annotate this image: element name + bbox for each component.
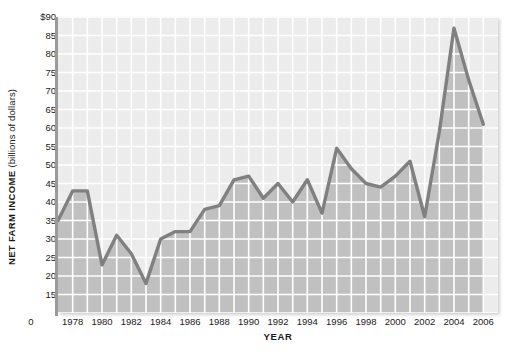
x-axis-tick-label: 1988 (209, 316, 230, 327)
x-axis-tick-label: 1996 (326, 316, 347, 327)
axis-origin-label: 0 (28, 316, 33, 327)
x-axis-tick-label: 2004 (443, 316, 464, 327)
net-farm-income-chart: NET FARM INCOME(billions of dollars) $90… (0, 0, 526, 354)
x-axis-tick-label: 2002 (414, 316, 435, 327)
x-axis-tick-label: 1994 (297, 316, 318, 327)
x-axis-tick-label: 1984 (150, 316, 171, 327)
x-axis-tick-label: 1980 (91, 316, 112, 327)
x-axis-tick-label: 1992 (267, 316, 288, 327)
x-axis-tick-label: 1982 (121, 316, 142, 327)
x-axis-tick-label: 1998 (355, 316, 376, 327)
x-axis-tick-label: 1978 (62, 316, 83, 327)
x-axis-tick-label: 2000 (385, 316, 406, 327)
x-axis-tick-labels: 0197819801982198419861988199019921994199… (0, 0, 526, 354)
x-axis-tick-label: 1990 (238, 316, 259, 327)
x-axis-tick-label: 1986 (179, 316, 200, 327)
x-axis-title: YEAR (56, 331, 500, 342)
x-axis-tick-label: 2006 (473, 316, 494, 327)
